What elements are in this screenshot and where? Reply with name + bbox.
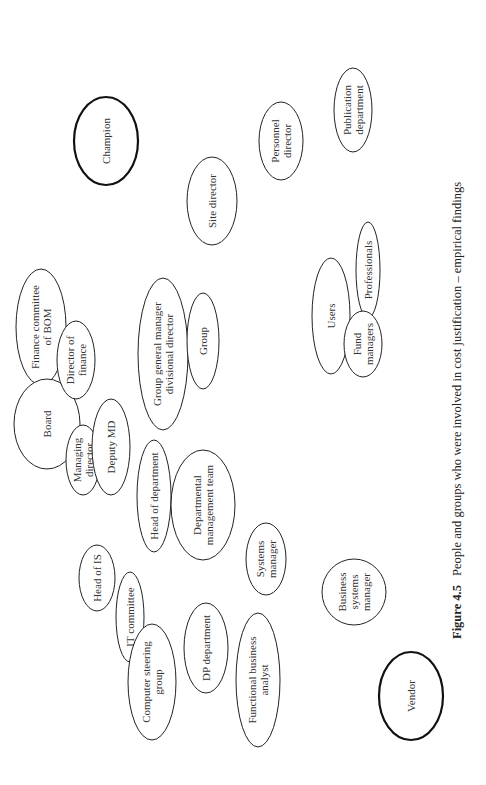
node-label-line: department: [353, 85, 365, 134]
node-users: Users: [312, 258, 350, 374]
node-label: Deputy MD: [105, 421, 117, 474]
node-label-line: director: [281, 124, 293, 159]
node-vendor: Vendor: [379, 652, 443, 740]
node-label-line: Site director: [206, 174, 218, 228]
node-label-line: manager: [266, 540, 278, 578]
node-label-line: Professionals: [362, 241, 374, 300]
node-label: Vendor: [405, 680, 417, 712]
node-label-line: systems: [348, 575, 360, 610]
node-label: IT committee: [124, 587, 136, 646]
node-champion: Champion: [74, 97, 138, 185]
node-label-line: Managing: [71, 437, 83, 482]
node-label-line: Users: [325, 303, 337, 328]
node-label: Group: [197, 326, 209, 355]
node-label-line: Personnel: [269, 119, 281, 162]
node-label-line: Publication: [341, 84, 353, 135]
node-label-line: of BOM: [41, 308, 53, 345]
node-label-line: finance: [76, 344, 88, 376]
node-label-line: Business: [336, 572, 348, 611]
node-label-line: IT committee: [124, 587, 136, 646]
node-label-line: Group general manager: [151, 302, 163, 406]
node-label: Personneldirector: [269, 119, 293, 162]
node-dp-department: DP department: [184, 603, 228, 693]
figure-4-5-diagram: ChampionSite directorPersonneldirectorPu…: [0, 0, 486, 785]
node-label-line: managers: [363, 323, 375, 365]
node-label: Champion: [100, 118, 112, 164]
node-label: Users: [325, 303, 337, 328]
node-site-director: Site director: [187, 157, 237, 245]
node-label: Head of IS: [91, 554, 103, 602]
node-business-systems-manager: Businesssystemsmanager: [322, 559, 386, 625]
node-deputy-md: Deputy MD: [92, 399, 130, 495]
node-label: Site director: [206, 174, 218, 228]
node-fund-managers: Fundmanagers: [344, 311, 382, 377]
node-label-line: Head of IS: [91, 554, 103, 602]
node-departmental-management-team: Departmentalmanagement team: [171, 450, 235, 560]
node-head-of-department: Head of department: [137, 440, 171, 552]
node-computer-steering-group: Computer steeringgroup: [128, 624, 176, 740]
node-label-line: Board: [41, 410, 53, 437]
node-group: Group: [187, 293, 219, 389]
node-head-of-is: Head of IS: [79, 545, 115, 611]
node-director-of-finance: Director offinance: [57, 321, 95, 399]
node-label: Board: [41, 410, 53, 437]
node-label-line: Director of: [64, 335, 76, 384]
node-label-line: Fund: [351, 332, 363, 355]
node-label-line: Head of department: [148, 452, 160, 539]
node-label-line: Functional business: [246, 636, 258, 723]
node-label: Professionals: [362, 241, 374, 300]
caption-text: People and groups who were involved in c…: [450, 182, 464, 576]
node-label-line: DP department: [200, 615, 212, 681]
node-label-line: Computer steering: [140, 641, 152, 723]
node-label: DP department: [200, 615, 212, 681]
node-systems-manager: Systemsmanager: [246, 523, 286, 595]
node-label-line: manager: [360, 573, 372, 611]
node-label: Managingdirector: [71, 437, 95, 482]
node-functional-business-analyst: Functional businessanalyst: [236, 613, 280, 747]
figure-caption: Figure 4.5 People and groups who were in…: [450, 182, 464, 639]
nodes-layer: ChampionSite directorPersonneldirectorPu…: [14, 68, 443, 747]
node-label-line: Vendor: [405, 680, 417, 712]
node-label-line: group: [152, 669, 164, 695]
node-label: Departmentalmanagement team: [191, 464, 215, 545]
node-group-general-manager: Group general managerdivisional director: [138, 278, 188, 430]
node-label: Systemsmanager: [254, 540, 278, 578]
node-label: Head of department: [148, 452, 160, 539]
node-publication-department: Publicationdepartment: [334, 68, 372, 152]
node-label: Businesssystemsmanager: [336, 572, 372, 611]
node-personnel-director: Personneldirector: [259, 102, 303, 180]
node-label-line: Finance committee: [29, 285, 41, 369]
node-label-line: Group: [197, 326, 209, 355]
node-label-line: management team: [203, 464, 215, 545]
node-label-line: Departmental: [191, 475, 203, 535]
node-label-line: divisional director: [163, 313, 175, 394]
node-label: Publicationdepartment: [341, 84, 365, 135]
node-label-line: Champion: [100, 118, 112, 164]
caption-label: Figure 4.5: [450, 585, 464, 639]
node-label-line: Deputy MD: [105, 421, 117, 474]
node-label-line: Systems: [254, 541, 266, 578]
node-professionals: Professionals: [356, 222, 380, 318]
node-label: Group general managerdivisional director: [151, 302, 175, 406]
node-label-line: analyst: [258, 664, 270, 695]
